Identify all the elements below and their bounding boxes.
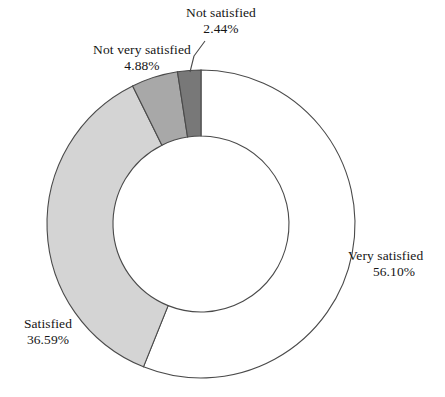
slice-label-value: 36.59%	[2, 332, 94, 348]
slice-label-name: Not very satisfied	[52, 42, 232, 58]
slice-label-satisfied: Satisfied 36.59%	[2, 316, 94, 347]
donut-chart-figure: Not satisfied 2.44% Not very satisfied 4…	[0, 0, 445, 397]
slice-label-value: 4.88%	[52, 58, 232, 74]
slice-label-value: 56.10%	[348, 264, 440, 280]
slice-label-name: Very satisfied	[348, 248, 445, 264]
slice-label-name: Not satisfied	[148, 5, 294, 21]
slice-label-name: Satisfied	[2, 316, 94, 332]
slice-label-very-satisfied: Very satisfied 56.10%	[348, 248, 445, 279]
slice-label-value: 2.44%	[148, 21, 294, 37]
slice-label-not-very-satisfied: Not very satisfied 4.88%	[52, 42, 232, 73]
slice-label-not-satisfied: Not satisfied 2.44%	[148, 5, 294, 36]
